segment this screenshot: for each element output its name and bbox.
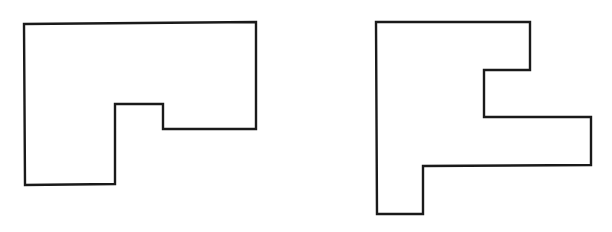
rectilinear-shape-right [376, 22, 591, 214]
shapes-figure [0, 0, 612, 232]
diagram-canvas [0, 0, 612, 232]
rectilinear-shape-left [24, 22, 256, 185]
